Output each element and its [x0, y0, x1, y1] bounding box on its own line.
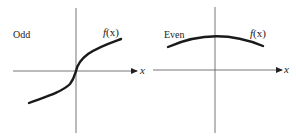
odd-panel: x Odd f(x) [13, 8, 145, 133]
even-x-axis-label: x [283, 63, 289, 75]
odd-label: Odd [13, 29, 30, 40]
odd-x-axis-label: x [139, 64, 145, 76]
even-function-label: f(x) [250, 27, 266, 40]
even-panel: x Even f(x) [153, 7, 289, 133]
even-label: Even [164, 29, 185, 40]
odd-even-diagram: x Odd f(x) x Even f(x) [0, 0, 296, 136]
odd-function-label: f(x) [103, 26, 119, 39]
